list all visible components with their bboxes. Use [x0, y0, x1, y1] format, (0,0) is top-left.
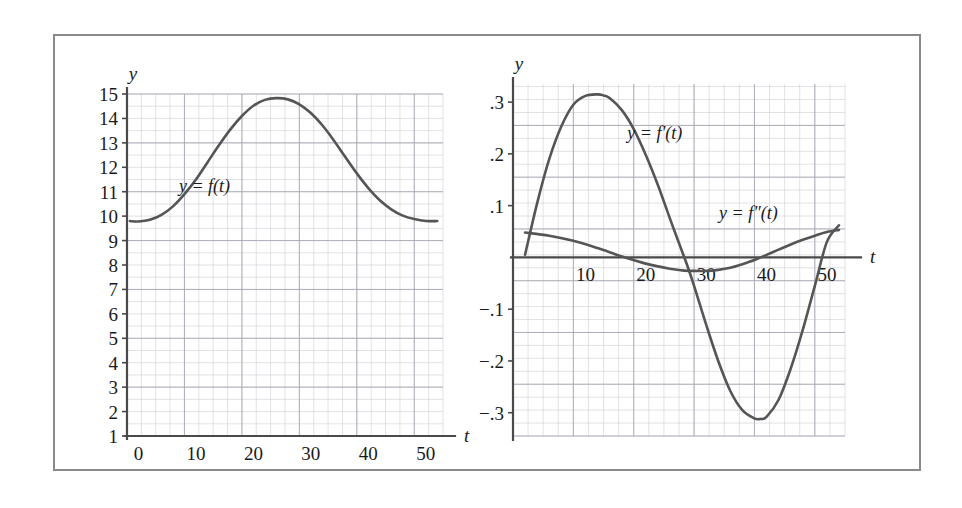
y-tick-label: 4	[109, 353, 119, 374]
axes	[125, 88, 455, 439]
y-tick-label: −.2	[479, 351, 504, 372]
y-tick-labels: −.3−.2−.1.1.2.3	[479, 92, 513, 424]
y-tick-label: −.1	[479, 299, 504, 320]
y-tick-label: 1	[109, 426, 119, 447]
y-axis-label: y	[513, 53, 524, 74]
y-tick-label: .1	[490, 196, 504, 217]
x-tick-label: 40	[757, 264, 776, 285]
x-tick-label: 30	[301, 443, 320, 464]
x-axis-label: t	[464, 425, 470, 446]
x-tick-label: 30	[697, 264, 716, 285]
y-tick-label: .3	[490, 92, 504, 113]
y-tick-label: 15	[99, 84, 118, 105]
y-tick-label: 7	[109, 279, 119, 300]
x-tick-label: 10	[576, 264, 595, 285]
x-tick-label: 20	[244, 443, 263, 464]
left-chart-svg: 12345678910111213141501020304050yty = f(…	[63, 36, 483, 473]
y-tick-label: 6	[109, 304, 119, 325]
chart-panel-right: −.3−.2−.1.1.2.31020304050yty = f′(t)y = …	[485, 36, 915, 469]
x-tick-label: 10	[186, 443, 205, 464]
y-tick-label: 3	[109, 377, 119, 398]
y-tick-label: 14	[99, 108, 119, 129]
right-chart-svg: −.3−.2−.1.1.2.31020304050yty = f′(t)y = …	[485, 36, 915, 473]
curve-label: y = f′(t)	[625, 123, 682, 144]
figure-frame: 12345678910111213141501020304050yty = f(…	[53, 34, 921, 471]
curves	[130, 98, 437, 221]
y-axis-label: y	[127, 63, 138, 84]
y-tick-labels: 123456789101112131415	[99, 84, 127, 447]
y-tick-label: 2	[109, 402, 119, 423]
y-tick-label: 12	[99, 157, 118, 178]
x-tick-label: 40	[359, 443, 378, 464]
x-tick-label: 50	[416, 443, 435, 464]
y-tick-label: 13	[99, 133, 118, 154]
y-tick-label: 8	[109, 255, 119, 276]
y-tick-label: −.3	[479, 403, 504, 424]
y-tick-label: 5	[109, 328, 119, 349]
y-tick-label: .2	[490, 144, 504, 165]
curve-label: y = f″(t)	[717, 203, 778, 224]
y-tick-label: 11	[100, 182, 118, 203]
chart-panel-left: 12345678910111213141501020304050yty = f(…	[63, 36, 483, 469]
curve-labels: y = f(t)	[177, 176, 230, 197]
x-tick-labels: 01020304050	[134, 443, 436, 464]
y-tick-label: 10	[99, 206, 118, 227]
x-axis-label: t	[870, 246, 876, 267]
y-tick-label: 9	[109, 231, 119, 252]
curve-label: y = f(t)	[177, 176, 230, 197]
x-tick-label: 0	[134, 443, 144, 464]
data-curve	[130, 98, 437, 221]
grid-lines	[127, 94, 443, 436]
x-tick-label: 20	[636, 264, 655, 285]
